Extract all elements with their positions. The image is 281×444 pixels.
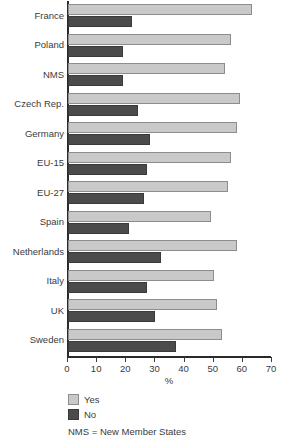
- x-tick: [242, 357, 243, 362]
- bar-yes: [68, 122, 237, 133]
- category-axis-labels: FrancePolandNMSCzech Rep.GermanyEU-15EU-…: [0, 0, 64, 356]
- category-label: UK: [0, 306, 64, 316]
- bar-no: [68, 16, 132, 27]
- bar-yes: [68, 4, 252, 15]
- legend-label-no: No: [84, 409, 96, 420]
- bar-yes: [68, 93, 240, 104]
- bar-yes: [68, 181, 228, 192]
- x-tick: [184, 357, 185, 362]
- legend-footnote: NMS = New Member States: [68, 426, 186, 437]
- bar-no: [68, 164, 147, 175]
- category-label: France: [0, 11, 64, 21]
- chart-legend: Yes No: [68, 392, 273, 422]
- legend-item-yes: Yes: [68, 392, 273, 406]
- bar-no: [68, 252, 161, 263]
- x-tick-label: 0: [64, 363, 69, 374]
- category-label: Germany: [0, 129, 64, 139]
- x-tick-label: 30: [149, 363, 160, 374]
- bar-no: [68, 193, 144, 204]
- category-label: Italy: [0, 276, 64, 286]
- x-tick-label: 10: [91, 363, 102, 374]
- bar-yes: [68, 299, 217, 310]
- bar-yes: [68, 63, 225, 74]
- x-tick: [154, 357, 155, 362]
- x-axis-line: [67, 356, 271, 358]
- bar-yes: [68, 240, 237, 251]
- x-tick-label: 60: [237, 363, 248, 374]
- bar-no: [68, 46, 123, 57]
- bar-no: [68, 341, 176, 352]
- bar-no: [68, 134, 150, 145]
- x-tick: [213, 357, 214, 362]
- x-tick-label: 50: [207, 363, 218, 374]
- bar-no: [68, 311, 155, 322]
- x-tick: [125, 357, 126, 362]
- category-label: Czech Rep.: [0, 99, 64, 109]
- category-label: Spain: [0, 217, 64, 227]
- bar-no: [68, 282, 147, 293]
- bar-yes: [68, 152, 231, 163]
- category-label: EU-27: [0, 188, 64, 198]
- legend-label-yes: Yes: [84, 394, 100, 405]
- bar-yes: [68, 270, 214, 281]
- x-tick-label: 20: [120, 363, 131, 374]
- bar-yes: [68, 329, 222, 340]
- x-tick: [271, 357, 272, 362]
- category-label: Netherlands: [0, 247, 64, 257]
- bar-yes: [68, 211, 211, 222]
- x-tick-label: 40: [178, 363, 189, 374]
- x-tick: [96, 357, 97, 362]
- category-label: Sweden: [0, 335, 64, 345]
- legend-swatch-yes-icon: [68, 394, 79, 405]
- bar-no: [68, 105, 138, 116]
- x-axis-title: %: [165, 375, 173, 386]
- x-tick: [67, 357, 68, 362]
- category-label: Poland: [0, 40, 64, 50]
- category-label: EU-15: [0, 158, 64, 168]
- x-tick-label: 70: [266, 363, 277, 374]
- plot-area: FrancePolandNMSCzech Rep.GermanyEU-15EU-…: [0, 0, 281, 360]
- bar-yes: [68, 34, 231, 45]
- legend-swatch-no-icon: [68, 409, 79, 420]
- category-label: NMS: [0, 70, 64, 80]
- bar-no: [68, 75, 123, 86]
- bar-group-container: [68, 0, 273, 356]
- bar-no: [68, 223, 129, 234]
- legend-item-no: No: [68, 407, 273, 421]
- bar-chart: FrancePolandNMSCzech Rep.GermanyEU-15EU-…: [0, 0, 281, 444]
